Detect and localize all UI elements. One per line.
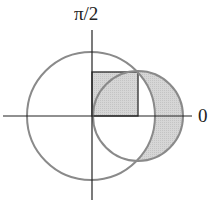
zero-angle-label: 0 bbox=[198, 106, 208, 125]
polar-diagram bbox=[0, 0, 216, 200]
pi-over-2-label: π/2 bbox=[74, 4, 98, 23]
